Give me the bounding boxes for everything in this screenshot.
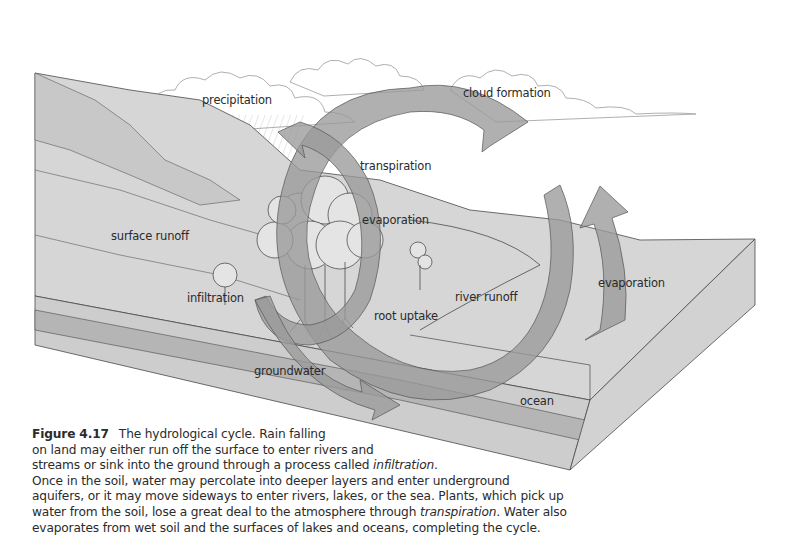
- label-groundwater: groundwater: [254, 366, 325, 378]
- label-river-runoff: river runoff: [455, 292, 517, 304]
- caption-line: Figure 4.17The hydrological cycle. Rain …: [32, 427, 732, 443]
- figure-caption: Figure 4.17The hydrological cycle. Rain …: [32, 427, 732, 536]
- caption-line: water from the soil, lose a great deal t…: [32, 505, 732, 521]
- figure-number: Figure 4.17: [32, 427, 109, 441]
- label-precipitation: precipitation: [202, 95, 272, 107]
- label-infiltration: infiltration: [187, 293, 244, 305]
- label-ocean: ocean: [520, 396, 554, 408]
- label-evaporation-ocean: evaporation: [598, 278, 665, 290]
- caption-line: streams or sink into the ground through …: [32, 458, 732, 474]
- label-cloud-formation: cloud formation: [463, 88, 551, 100]
- caption-line: on land may either run off the surface t…: [32, 443, 732, 459]
- label-transpiration: transpiration: [360, 161, 431, 173]
- caption-line: aquifers, or it may move sideways to ent…: [32, 489, 732, 505]
- caption-line: evaporates from wet soil and the surface…: [32, 521, 732, 537]
- label-surface-runoff: surface runoff: [111, 231, 189, 243]
- label-evaporation-land: evaporation: [362, 215, 429, 227]
- caption-line: Once in the soil, water may percolate in…: [32, 474, 732, 490]
- label-root-uptake: root uptake: [374, 311, 438, 323]
